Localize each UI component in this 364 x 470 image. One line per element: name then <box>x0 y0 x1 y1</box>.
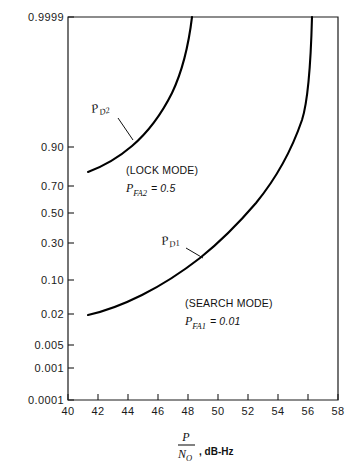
y-tick-label: 0.9999 <box>28 11 64 23</box>
y-tick-label: 0.90 <box>41 141 64 153</box>
x-tick-label: 56 <box>301 405 314 417</box>
x-tick-label: 44 <box>121 405 134 417</box>
axis-title-denominator: NO <box>177 447 192 463</box>
x-tick-label: 58 <box>331 405 344 417</box>
y-tick-label: 0.001 <box>34 362 64 374</box>
x-axis-title: P NO , dB-Hz <box>177 430 234 463</box>
figure-container: 0.9999 0.90 0.70 0.50 0.30 0.10 0.02 0.0… <box>0 0 364 470</box>
x-axis-ticks <box>68 394 338 400</box>
annotation-search-mode: (SEARCH MODE) PFA1= 0.01 <box>184 297 273 331</box>
x-tick-label: 50 <box>211 405 224 417</box>
annotation-pd2: PD2 <box>89 98 133 140</box>
x-tick-label: 48 <box>181 405 194 417</box>
y-tick-label: 0.02 <box>41 308 64 320</box>
axis-title-numerator: P <box>181 430 190 444</box>
x-tick-label: 40 <box>61 405 74 417</box>
annotation-pd1-label: PD1 <box>159 231 180 251</box>
x-axis-tick-labels: 40 42 44 46 48 50 52 54 56 58 <box>61 405 344 417</box>
x-tick-label: 54 <box>271 405 284 417</box>
x-tick-label: 42 <box>91 405 104 417</box>
y-tick-label: 0.10 <box>41 274 64 286</box>
curve-pd2 <box>88 17 192 172</box>
pfa2-label: PFA2= 0.5 <box>125 181 176 198</box>
annotation-lock-mode: (LOCK MODE) PFA2= 0.5 <box>125 164 198 198</box>
lock-mode-label: (LOCK MODE) <box>126 164 198 176</box>
plot-frame <box>68 17 338 400</box>
y-axis-tick-labels: 0.9999 0.90 0.70 0.50 0.30 0.10 0.02 0.0… <box>28 11 64 406</box>
search-mode-label: (SEARCH MODE) <box>185 297 273 309</box>
detection-probability-chart: 0.9999 0.90 0.70 0.50 0.30 0.10 0.02 0.0… <box>0 0 364 470</box>
curve-pd1 <box>88 17 312 315</box>
pfa1-label: PFA1= 0.01 <box>184 314 241 331</box>
y-tick-label: 0.0001 <box>28 394 64 406</box>
axis-title-units: , dB-Hz <box>199 446 233 457</box>
y-axis-ticks <box>68 17 74 400</box>
y-tick-label: 0.005 <box>34 339 64 351</box>
x-tick-label: 46 <box>151 405 164 417</box>
x-tick-label: 52 <box>241 405 254 417</box>
y-tick-label: 0.70 <box>41 180 64 192</box>
y-tick-label: 0.30 <box>41 237 64 249</box>
annotation-pd2-label: PD2 <box>89 98 111 118</box>
annotation-pd1: PD1 <box>159 231 203 258</box>
y-tick-label: 0.50 <box>41 207 64 219</box>
